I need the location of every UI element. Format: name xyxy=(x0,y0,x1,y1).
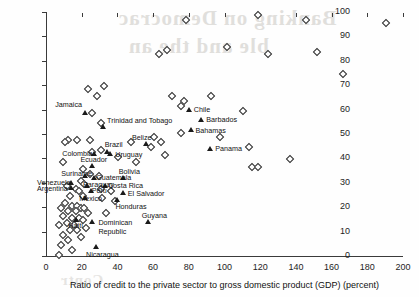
x-tick-label-180: 180 xyxy=(354,263,380,272)
y-axis-line xyxy=(46,12,47,256)
data-point xyxy=(382,19,390,27)
country-label-ecuador: Ecuador xyxy=(80,156,107,163)
x-tick-label-160: 160 xyxy=(319,263,345,272)
country-label-panama: Panama xyxy=(215,145,242,152)
country-label-peru: Peru xyxy=(92,187,107,194)
x-tick-label-140: 140 xyxy=(283,263,309,272)
data-point xyxy=(68,245,76,253)
data-point xyxy=(73,136,81,144)
data-point-ecuador xyxy=(89,163,95,168)
data-point xyxy=(302,16,310,24)
data-point-guyana xyxy=(145,219,151,224)
data-point xyxy=(64,236,72,244)
data-point xyxy=(84,209,92,217)
country-label-bahamas: Bahamas xyxy=(196,127,226,134)
country-label-suriname: Suriname xyxy=(61,170,92,177)
country-label-honduras: Honduras xyxy=(115,203,146,210)
data-point-panama xyxy=(207,146,213,151)
data-point xyxy=(264,50,272,58)
y-tick-label-70: 70 xyxy=(326,80,350,89)
data-point xyxy=(207,92,215,100)
data-point-nicaragua xyxy=(93,244,99,249)
data-point-dominican-republic xyxy=(89,219,95,224)
y-tick-label-60: 60 xyxy=(326,105,350,114)
y-tick xyxy=(42,36,46,37)
data-point xyxy=(100,82,108,90)
y-tick-label-50: 50 xyxy=(326,129,350,138)
data-point xyxy=(155,50,163,58)
y-tick-label-30: 30 xyxy=(326,178,350,187)
data-point xyxy=(66,192,74,200)
data-point xyxy=(223,43,231,51)
data-point xyxy=(253,162,261,170)
data-point xyxy=(93,92,101,100)
data-point xyxy=(168,92,176,100)
data-point xyxy=(339,70,347,78)
y-tick xyxy=(42,134,46,135)
data-point xyxy=(84,84,92,92)
y-tick xyxy=(42,232,46,233)
country-label-chile: Chile xyxy=(194,106,210,113)
country-label-haiti: Haiti xyxy=(68,222,82,229)
x-tick xyxy=(189,13,190,17)
country-label-brazil: Brazil xyxy=(105,141,123,148)
data-point xyxy=(239,106,247,114)
data-point xyxy=(253,11,261,19)
data-point xyxy=(161,150,169,158)
data-point xyxy=(55,250,63,258)
x-tick-label-40: 40 xyxy=(104,263,130,272)
data-point xyxy=(162,45,170,53)
data-point xyxy=(177,128,185,136)
x-tick xyxy=(403,13,404,17)
x-tick xyxy=(82,13,83,17)
x-tick xyxy=(46,13,47,17)
y-tick-label-90: 90 xyxy=(326,31,350,40)
data-point xyxy=(57,241,65,249)
data-point-uruguay xyxy=(107,151,113,156)
data-point xyxy=(102,209,110,217)
x-tick-label-120: 120 xyxy=(247,263,273,272)
y-tick xyxy=(42,207,46,208)
country-label-dominican-republic: Dominican Republic xyxy=(98,218,132,236)
country-label-jamaica: Jamaica xyxy=(55,101,82,108)
country-label-guyana: Guyana xyxy=(142,212,167,219)
y-tick-label-100: 100 xyxy=(326,7,350,16)
data-point-bahamas xyxy=(188,127,194,132)
x-tick-label-100: 100 xyxy=(212,263,238,272)
data-point xyxy=(157,138,165,146)
x-tick xyxy=(367,13,368,17)
country-label-trinidad-and-tobago: Trinidad and Tobago xyxy=(107,117,172,124)
y-tick xyxy=(42,61,46,62)
data-point xyxy=(312,48,320,56)
data-point xyxy=(87,109,95,117)
data-point xyxy=(286,155,294,163)
data-point-trinidad-and-tobago xyxy=(100,124,106,129)
y-tick xyxy=(42,85,46,86)
x-tick xyxy=(117,13,118,17)
x-tick-label-200: 200 xyxy=(390,263,416,272)
country-label-belize: Belize xyxy=(132,134,152,141)
data-point xyxy=(182,16,190,24)
y-tick-label-10: 10 xyxy=(326,227,350,236)
y-tick xyxy=(42,158,46,159)
plot-area: 0102030405060708090100 02040608010012014… xyxy=(46,12,403,256)
y-tick-label-40: 40 xyxy=(326,153,350,162)
x-tick-label-20: 20 xyxy=(69,263,95,272)
country-label-bolivia: Bolivia xyxy=(119,168,140,175)
data-point xyxy=(59,158,67,166)
data-point xyxy=(77,233,85,241)
y-tick-label-20: 20 xyxy=(326,202,350,211)
x-tick-label-0: 0 xyxy=(33,263,59,272)
y-tick xyxy=(42,110,46,111)
x-tick xyxy=(225,13,226,17)
y-tick-label-0: 0 xyxy=(326,251,350,260)
country-label-mexico: Mexico xyxy=(79,195,102,202)
y-tick-label-80: 80 xyxy=(326,56,350,65)
x-tick-label-60: 60 xyxy=(140,263,166,272)
data-point xyxy=(132,158,140,166)
scatter-chart-figure: Banking on Democrac ble and the an Contr… xyxy=(0,0,419,297)
country-label-argentina: Argentina xyxy=(37,185,68,192)
country-label-uruguay: Uruguay xyxy=(115,151,142,158)
y-tick xyxy=(42,256,46,257)
x-axis-title: Ratio of credit to the private sector to… xyxy=(46,280,403,290)
